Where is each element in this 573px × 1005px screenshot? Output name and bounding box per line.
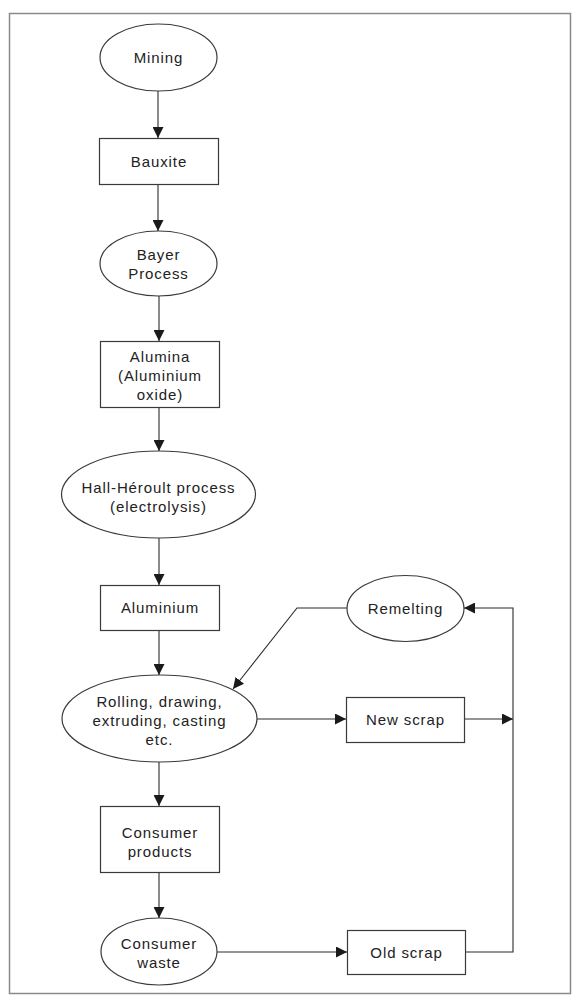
node-label-line3: oxide)	[137, 386, 183, 403]
node-label-line1: Consumer	[122, 824, 198, 841]
node-label: Bauxite	[131, 153, 187, 170]
node-consumer-products: Consumer products	[101, 807, 220, 873]
node-label-line1: Consumer	[121, 935, 197, 952]
edge-scrap-loop-remelting	[464, 608, 513, 952]
node-label: Remelting	[368, 600, 444, 617]
node-remelting: Remelting	[347, 576, 464, 642]
node-label-line2: Process	[128, 265, 189, 282]
node-label-line2: waste	[136, 954, 181, 971]
node-label-line2: (electrolysis)	[110, 498, 207, 515]
node-aluminium: Aluminium	[101, 586, 220, 631]
node-label: New scrap	[366, 711, 445, 728]
edge-remelting-rolling	[233, 608, 347, 689]
node-consumer-waste: Consumer waste	[101, 918, 217, 985]
node-old-scrap: Old scrap	[348, 931, 466, 975]
node-new-scrap: New scrap	[347, 698, 465, 743]
node-label-line3: etc.	[146, 731, 174, 748]
node-label-line1: Bayer	[137, 246, 181, 263]
node-label-line1: Rolling, drawing,	[96, 693, 222, 710]
node-label-line2: products	[128, 843, 193, 860]
node-label: Aluminium	[121, 599, 199, 616]
node-label: Mining	[134, 49, 184, 66]
node-alumina: Alumina (Aluminium oxide)	[101, 342, 220, 408]
node-label-line1: Alumina	[130, 348, 191, 365]
node-hall-heroult: Hall-Héroult process (electrolysis)	[62, 451, 256, 538]
node-bauxite: Bauxite	[100, 139, 219, 185]
ellipse-shape	[100, 231, 217, 296]
node-label-line1: Hall-Héroult process	[82, 479, 236, 496]
node-bayer-process: Bayer Process	[100, 231, 217, 296]
node-mining: Mining	[100, 24, 217, 91]
node-label-line2: extruding, casting	[93, 712, 227, 729]
node-rolling: Rolling, drawing, extruding, casting etc…	[62, 675, 257, 762]
node-label: Old scrap	[370, 944, 442, 961]
node-label-line2: (Aluminium	[118, 367, 202, 384]
flowchart-canvas: Mining Bauxite Bayer Process Alumina (Al…	[0, 0, 573, 1005]
